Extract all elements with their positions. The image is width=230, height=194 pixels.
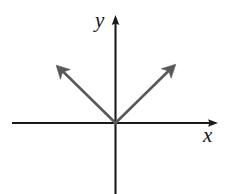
- x-axis-label: x: [203, 125, 212, 146]
- y-axis-label: y: [95, 10, 104, 31]
- left-vector-shaft: [62, 70, 116, 123]
- left-vector: [56, 65, 115, 123]
- diagram-canvas: [0, 0, 230, 194]
- vector-diagram-figure: y x: [0, 0, 230, 194]
- y-axis: [112, 15, 120, 194]
- right-vector-shaft: [116, 69, 171, 123]
- right-vector: [116, 64, 176, 123]
